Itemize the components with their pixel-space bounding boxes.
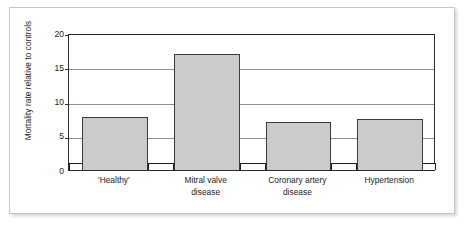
x-axis-label-line: Coronary artery bbox=[252, 175, 344, 187]
plot-inner bbox=[69, 35, 434, 170]
x-axis-label-line: Hypertension bbox=[343, 175, 435, 187]
y-tick-mark bbox=[65, 138, 69, 139]
control-bar bbox=[148, 163, 174, 170]
y-axis-title: Mortality rate relative to controls bbox=[24, 6, 33, 156]
y-tick-mark bbox=[65, 104, 69, 105]
y-tick-label-20: 20 bbox=[44, 30, 64, 39]
bar bbox=[174, 54, 240, 170]
gridline bbox=[69, 104, 434, 105]
y-tick-label-10: 10 bbox=[44, 98, 64, 107]
y-axis-tick-labels: 20 15 10 5 0 bbox=[40, 8, 64, 215]
y-tick-mark bbox=[65, 35, 69, 36]
bar bbox=[266, 122, 332, 170]
plot-area bbox=[68, 34, 435, 171]
y-tick-label-15: 15 bbox=[44, 64, 64, 73]
x-axis-category-labels: 'Healthy'Mitral valvediseaseCoronary art… bbox=[68, 175, 435, 211]
bar-chart: Mortality rate relative to controls 20 1… bbox=[10, 8, 456, 215]
x-axis-label-line: disease bbox=[252, 187, 344, 199]
x-axis-label-0: 'Healthy' bbox=[68, 175, 160, 187]
control-bar bbox=[240, 163, 266, 170]
gridline bbox=[69, 69, 434, 70]
x-axis-label-line: disease bbox=[160, 187, 252, 199]
x-axis-label-line: Mitral valve bbox=[160, 175, 252, 187]
x-axis-label-2: Coronary arterydisease bbox=[252, 175, 344, 198]
y-tick-label-0: 0 bbox=[44, 167, 64, 176]
x-axis-label-line: 'Healthy' bbox=[68, 175, 160, 187]
y-tick-mark bbox=[65, 69, 69, 70]
bar bbox=[82, 117, 148, 170]
figure-frame: Mortality rate relative to controls 20 1… bbox=[9, 7, 455, 214]
y-tick-label-5: 5 bbox=[44, 132, 64, 141]
x-axis-label-3: Hypertension bbox=[343, 175, 435, 187]
control-bar bbox=[331, 163, 357, 170]
x-axis-label-1: Mitral valvedisease bbox=[160, 175, 252, 198]
bar bbox=[357, 119, 423, 170]
